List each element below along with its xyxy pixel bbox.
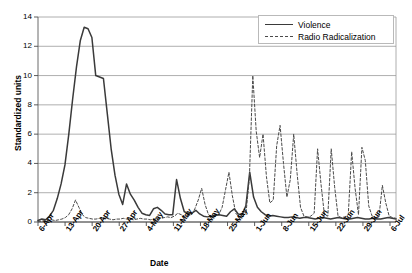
y-tick-label: 8 [10, 101, 32, 109]
y-tick-label: 2 [10, 189, 32, 197]
series-line-violence [38, 27, 396, 220]
legend-item-radio-radicalization: Radio Radicalization [265, 30, 376, 42]
chart-container: Standardized units Date 02468101214 6-Ap… [0, 0, 412, 273]
y-tick-label: 10 [10, 72, 32, 80]
series-line-radio-radicalization [38, 76, 396, 222]
y-tick-label: 4 [10, 159, 32, 167]
legend-label-radio-radicalization: Radio Radicalization [298, 32, 376, 42]
y-tick-label: 14 [10, 13, 32, 21]
legend-label-violence: Violence [298, 20, 330, 30]
y-tick-label: 12 [10, 42, 32, 50]
legend-solid-line-icon [265, 21, 293, 29]
y-tick-label: 0 [10, 218, 32, 226]
legend: Violence Radio Radicalization [258, 15, 394, 44]
x-axis-title: Date [150, 258, 168, 268]
legend-item-violence: Violence [265, 18, 330, 30]
legend-dashed-line-icon [265, 33, 293, 41]
y-tick-label: 6 [10, 130, 32, 138]
